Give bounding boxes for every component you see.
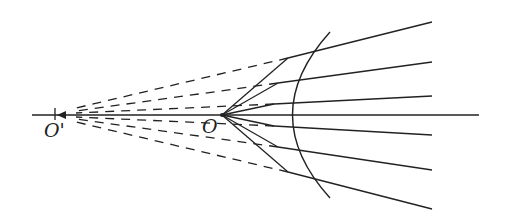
point-o xyxy=(220,113,224,117)
label-o-prime: O' xyxy=(44,119,65,141)
ray-diagram: O O' xyxy=(0,0,506,214)
label-o: O xyxy=(202,115,218,137)
arrow-icon xyxy=(57,111,66,119)
